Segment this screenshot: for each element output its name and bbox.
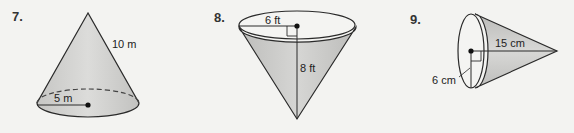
problem-number: 7. <box>12 9 23 24</box>
radius-label: 6 ft <box>265 14 280 26</box>
problem-7: 7. 10 m 5 m <box>12 9 139 117</box>
center-point <box>85 102 90 107</box>
worksheet-figures: 7. 10 m 5 m 8. 6 ft 8 ft 9. 15 cm 6 cm <box>0 0 574 133</box>
center-point <box>468 48 473 53</box>
slant-height-label: 10 m <box>112 38 136 50</box>
height-label: 8 ft <box>300 62 315 74</box>
problem-9: 9. 15 cm 6 cm <box>410 12 557 88</box>
cone-7-body <box>37 13 139 117</box>
radius-label: 5 m <box>54 92 72 104</box>
problem-8: 8. 6 ft 8 ft <box>214 10 356 119</box>
center-point <box>294 23 299 28</box>
problem-number: 8. <box>214 10 225 25</box>
cone-figures: 7. 10 m 5 m 8. 6 ft 8 ft 9. 15 cm 6 cm <box>0 0 574 133</box>
slant-height-label: 15 cm <box>495 37 525 49</box>
problem-number: 9. <box>410 12 421 27</box>
radius-label: 6 cm <box>432 74 456 86</box>
